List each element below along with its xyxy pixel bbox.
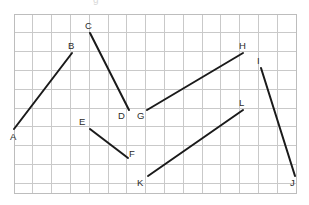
point-label-h: H <box>239 40 246 51</box>
grid-border <box>14 14 296 193</box>
point-label-c: C <box>85 20 92 31</box>
grid <box>14 14 296 193</box>
point-label-b: B <box>68 40 74 51</box>
segment-ab <box>14 53 72 129</box>
segment-ef <box>90 129 128 158</box>
diagram-canvas: g ABCDEFGHIJKL <box>0 0 309 205</box>
point-label-d: D <box>118 110 125 121</box>
line-segment-diagram: ABCDEFGHIJKL <box>0 0 309 205</box>
point-label-g: G <box>137 110 144 121</box>
segments-group <box>14 33 295 176</box>
point-label-l: L <box>239 97 244 108</box>
grid-outer-border <box>14 14 296 193</box>
point-label-f: F <box>129 148 135 159</box>
point-label-k: K <box>137 177 144 188</box>
point-labels-group: ABCDEFGHIJKL <box>10 20 295 188</box>
point-label-e: E <box>79 116 85 127</box>
segment-cd <box>90 33 129 110</box>
segment-kl <box>148 110 243 176</box>
segment-gh <box>147 53 243 110</box>
point-label-a: A <box>10 131 17 142</box>
point-label-j: J <box>290 177 295 188</box>
point-label-i: I <box>257 55 260 66</box>
segment-ij <box>261 68 295 176</box>
